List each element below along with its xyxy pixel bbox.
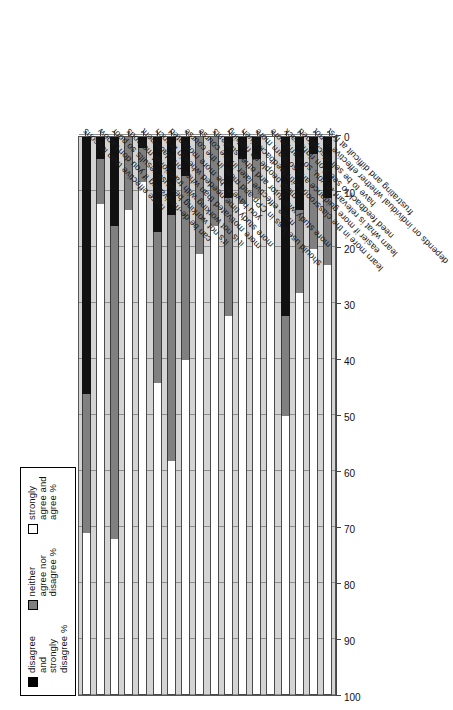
- black-swatch-icon: [28, 677, 38, 687]
- bar-segment-agree: [124, 210, 133, 695]
- bar-segment-agree: [323, 265, 332, 695]
- gray-swatch-icon: [28, 600, 38, 610]
- bar-segment-agree: [266, 137, 275, 695]
- bar-row[interactable]: [224, 137, 233, 695]
- bar-segment-agree: [153, 383, 162, 695]
- bar-segment-neither: [181, 176, 190, 360]
- bar-row[interactable]: [195, 137, 204, 695]
- bar-row[interactable]: [323, 137, 332, 695]
- bar-segment-neither: [295, 210, 304, 294]
- bar-segment-disagree: [110, 137, 119, 226]
- bar-segment-neither: [110, 226, 119, 538]
- bar-segment-agree: [167, 461, 176, 695]
- value-axis-tick-label: 90: [344, 636, 355, 647]
- bar-segment-disagree: [281, 137, 290, 316]
- value-axis-tick: [336, 639, 341, 640]
- value-axis-tick-label: 10: [344, 188, 355, 199]
- value-axis-tick-label: 60: [344, 468, 355, 479]
- legend-item-disagree: disagree and strongly disagree %: [27, 624, 69, 687]
- bar-segment-neither: [153, 232, 162, 383]
- bar-segment-disagree: [252, 137, 261, 159]
- value-axis-tick: [336, 583, 341, 584]
- legend-item-agree: strongly agree and agree %: [27, 476, 59, 534]
- bar-segment-disagree: [309, 137, 318, 154]
- bar-segment-neither: [238, 159, 247, 204]
- bar-segment-agree: [82, 533, 91, 695]
- bar-segment-disagree: [96, 137, 105, 159]
- bar-row[interactable]: [210, 137, 219, 695]
- bar-segment-disagree: [82, 137, 91, 394]
- bar-row[interactable]: [124, 137, 133, 695]
- bar-segment-agree: [96, 204, 105, 695]
- chart-legend: disagree and strongly disagree % neither…: [20, 467, 76, 696]
- value-axis-tick: [336, 695, 341, 696]
- bar-row[interactable]: [82, 137, 91, 695]
- legend-item-neither: neither agree nor disagree %: [27, 548, 59, 611]
- bar-row[interactable]: [138, 137, 147, 695]
- bar-segment-agree: [309, 249, 318, 695]
- bar-row[interactable]: [181, 137, 190, 695]
- gridline: [79, 134, 335, 135]
- bar-segment-disagree: [295, 137, 304, 210]
- bar-row[interactable]: [266, 137, 275, 695]
- bar-segment-agree: [295, 293, 304, 695]
- bar-row[interactable]: [281, 137, 290, 695]
- value-axis-tick-label: 0: [344, 132, 350, 143]
- bar-segment-agree: [238, 204, 247, 695]
- legend-label-disagree: disagree and strongly disagree %: [27, 624, 69, 673]
- bar-segment-neither: [309, 154, 318, 249]
- value-axis-tick-label: 50: [344, 412, 355, 423]
- bar-row[interactable]: [238, 137, 247, 695]
- bar-segment-neither: [323, 198, 332, 265]
- bar-segment-neither: [210, 137, 219, 226]
- bar-segment-agree: [252, 198, 261, 695]
- bar-row[interactable]: [295, 137, 304, 695]
- bar-segment-agree: [138, 182, 147, 695]
- bar-segment-neither: [82, 394, 91, 534]
- bar-segment-agree: [195, 254, 204, 695]
- value-axis-tick: [336, 471, 341, 472]
- bar-segment-neither: [224, 198, 233, 315]
- bar-segment-agree: [224, 316, 233, 695]
- bar-segment-neither: [195, 137, 204, 254]
- legend-label-agree: strongly agree and agree %: [27, 476, 59, 520]
- value-axis-tick-label: 40: [344, 356, 355, 367]
- bar-row[interactable]: [153, 137, 162, 695]
- bar-series-container: [79, 137, 335, 695]
- bar-segment-disagree: [323, 137, 332, 198]
- value-axis-tick: [336, 359, 341, 360]
- value-axis-tick-label: 100: [344, 692, 361, 703]
- bar-segment-neither: [138, 148, 147, 181]
- bar-segment-neither: [252, 159, 261, 198]
- bar-segment-disagree: [181, 137, 190, 176]
- bar-row[interactable]: [96, 137, 105, 695]
- white-swatch-icon: [28, 524, 38, 534]
- value-axis-tick: [336, 527, 341, 528]
- bar-segment-disagree: [167, 137, 176, 215]
- bar-row[interactable]: [110, 137, 119, 695]
- bar-segment-neither: [96, 159, 105, 204]
- value-axis-tick: [336, 303, 341, 304]
- bar-segment-disagree: [238, 137, 247, 159]
- value-axis-tick: [336, 415, 341, 416]
- bar-row[interactable]: [309, 137, 318, 695]
- bar-segment-neither: [281, 316, 290, 416]
- bar-segment-neither: [124, 137, 133, 210]
- bar-segment-agree: [210, 226, 219, 695]
- bar-segment-neither: [167, 215, 176, 461]
- bar-segment-disagree: [138, 137, 147, 148]
- bar-row[interactable]: [167, 137, 176, 695]
- value-axis-tick: [336, 247, 341, 248]
- value-axis: 1009080706050403020100: [336, 136, 337, 696]
- value-axis-tick-label: 80: [344, 580, 355, 591]
- bar-segment-agree: [281, 416, 290, 695]
- bar-segment-disagree: [224, 137, 233, 198]
- bar-segment-disagree: [153, 137, 162, 232]
- bar-segment-agree: [181, 360, 190, 695]
- value-axis-tick-label: 70: [344, 524, 355, 535]
- bar-row[interactable]: [252, 137, 261, 695]
- legend-label-neither: neither agree nor disagree %: [27, 548, 59, 597]
- value-axis-tick-label: 20: [344, 244, 355, 255]
